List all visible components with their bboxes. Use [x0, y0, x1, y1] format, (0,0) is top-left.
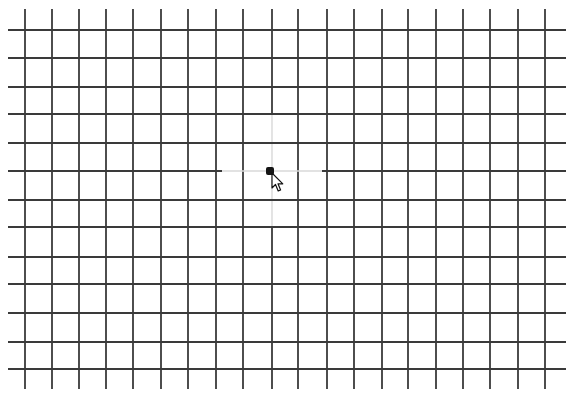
amsler-grid-canvas [0, 0, 575, 412]
mouse-cursor-icon [271, 172, 284, 193]
grid-lines [0, 0, 575, 412]
